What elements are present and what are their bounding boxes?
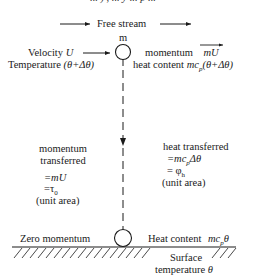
momentum-unit-area-note: (unit area): [36, 195, 79, 207]
heat-unit-area-note: (unit area): [162, 177, 205, 189]
mass-label: m: [119, 32, 127, 44]
surface-hatching: [14, 248, 236, 258]
surface-temperature-label: temperature θ: [155, 264, 213, 276]
free-stream-label: Free stream: [97, 18, 146, 30]
surface-label: Surface: [170, 252, 202, 264]
downward-arrow-icon: [120, 138, 126, 146]
momentum-label: momentum mU: [145, 47, 219, 59]
heat-transferred-heading: heat transferred: [163, 141, 229, 153]
momentum-transferred-heading: momentum transferred: [28, 143, 98, 167]
particle-top-icon: [116, 45, 131, 60]
velocity-label: Velocity U: [28, 47, 73, 59]
heat-content-surface-label: Heat content mcpθ: [148, 233, 229, 249]
heat-content-top-label: heat content mcp(θ+Δθ): [133, 59, 233, 75]
temperature-label: Temperature (θ+Δθ): [8, 59, 94, 71]
particle-bottom-icon: [115, 230, 132, 247]
zero-momentum-label: Zero momentum: [20, 233, 90, 245]
